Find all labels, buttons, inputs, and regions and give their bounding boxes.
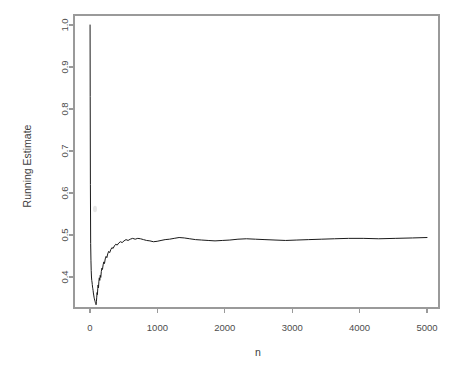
x-tick-label: 0 xyxy=(87,322,92,333)
x-tick-label: 5000 xyxy=(416,322,437,333)
speck-icon xyxy=(93,206,97,212)
data-series-group xyxy=(90,25,427,305)
x-tick-label: 4000 xyxy=(349,322,370,333)
y-tick-label: 0.9 xyxy=(59,60,70,73)
y-tick-label: 0.4 xyxy=(59,270,70,283)
y-tick-label: 0.5 xyxy=(59,228,70,241)
y-tick-label: 0.6 xyxy=(59,186,70,199)
x-tick-label: 3000 xyxy=(282,322,303,333)
plot-frame xyxy=(74,15,439,308)
y-tick-label: 0.8 xyxy=(59,102,70,115)
y-axis: 0.40.50.60.70.80.91.0 xyxy=(59,18,75,283)
render-artifact-icon xyxy=(93,206,97,212)
y-tick-label: 1.0 xyxy=(59,18,70,31)
x-axis: 010002000300040005000 xyxy=(87,308,437,333)
y-axis-title: Running Estimate xyxy=(21,124,33,207)
chart-canvas: 0.40.50.60.70.80.91.0 010002000300040005… xyxy=(0,0,463,377)
y-tick-label: 0.7 xyxy=(59,144,70,157)
x-axis-title: n xyxy=(255,346,261,358)
x-tick-label: 1000 xyxy=(147,322,168,333)
series-line xyxy=(90,25,427,305)
x-tick-label: 2000 xyxy=(214,322,235,333)
running-estimate-plot: 0.40.50.60.70.80.91.0 010002000300040005… xyxy=(0,0,463,377)
